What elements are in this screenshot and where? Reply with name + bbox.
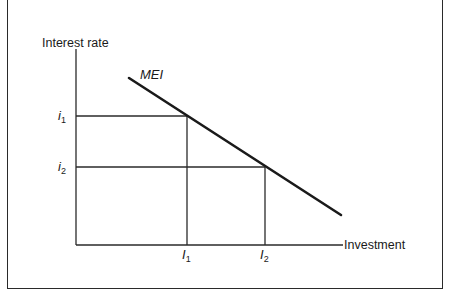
i2-tick-label: i2 xyxy=(58,159,66,176)
I1-tick-label: I1 xyxy=(182,247,191,264)
mei-curve-label: MEI xyxy=(140,67,164,82)
x-axis-label: Investment xyxy=(344,238,406,252)
mei-curve xyxy=(129,78,341,215)
I2-tick-label: I2 xyxy=(260,247,269,264)
i1-tick-label: i1 xyxy=(58,108,66,125)
mei-diagram: Interest rate Investment MEI i1 i2 I1 I2 xyxy=(0,0,449,294)
y-axis-label: Interest rate xyxy=(42,36,109,50)
